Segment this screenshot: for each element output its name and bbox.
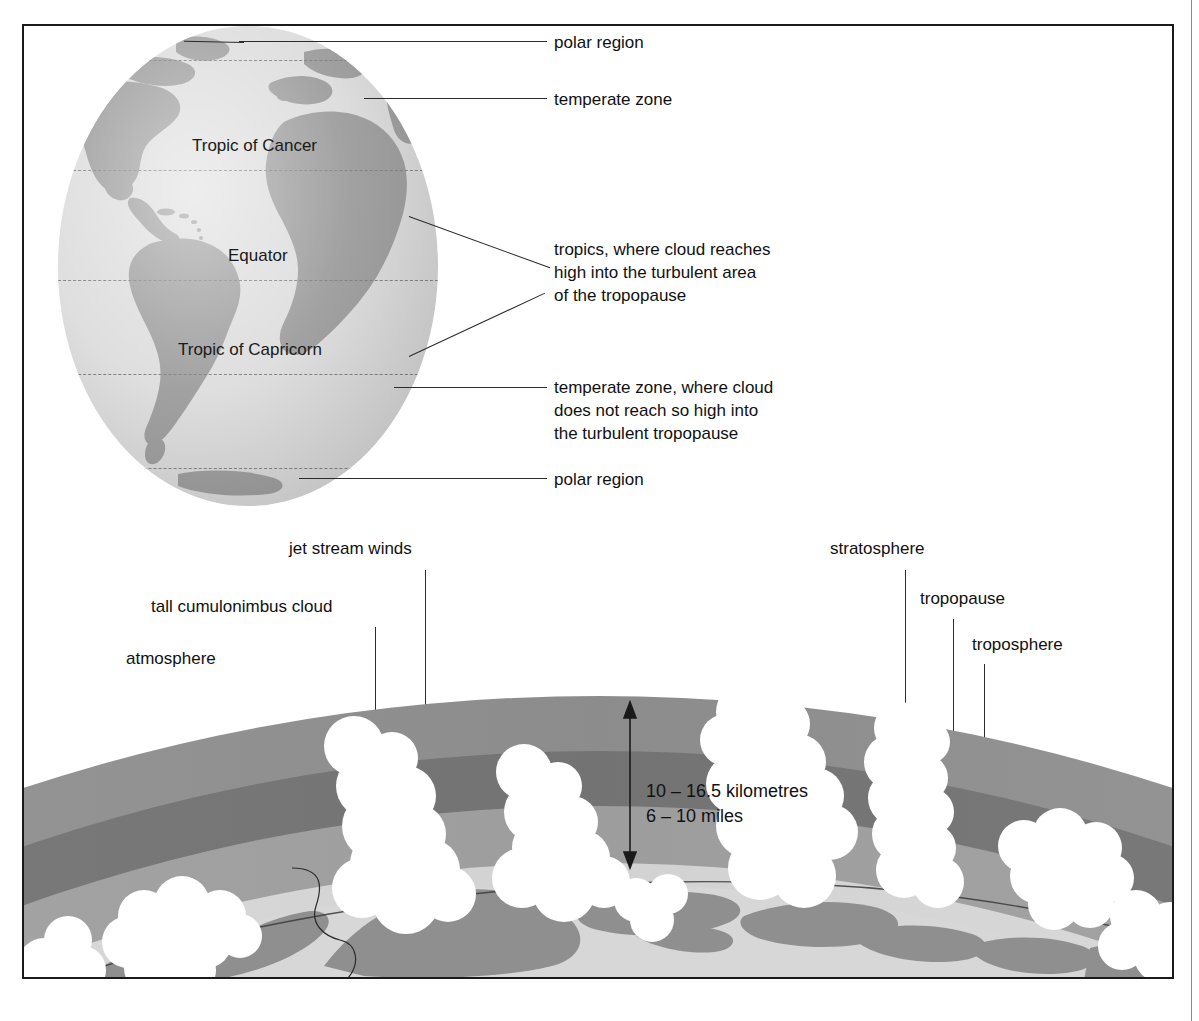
callout-temperate-zone-north: temperate zone bbox=[554, 88, 672, 111]
lat-label-equator: Equator bbox=[228, 246, 288, 266]
leader-polar-region-north bbox=[239, 41, 547, 42]
lat-label-tropic-of-cancer: Tropic of Cancer bbox=[192, 136, 317, 156]
diagram-frame: Tropic of Cancer Equator Tropic of Capri… bbox=[22, 24, 1174, 979]
callout-temperate-zone-south: temperate zone, where cloud does not rea… bbox=[554, 376, 773, 445]
atmosphere-cross-section: 10 – 16.5 kilometres 6 – 10 miles bbox=[24, 496, 1172, 979]
lat-line-arctic-circle bbox=[58, 60, 438, 61]
height-measurement-label: 10 – 16.5 kilometres 6 – 10 miles bbox=[646, 779, 808, 829]
lat-line-equator bbox=[58, 280, 438, 281]
callout-polar-region-north: polar region bbox=[554, 31, 644, 54]
diagram-page: Tropic of Cancer Equator Tropic of Capri… bbox=[0, 0, 1199, 1021]
callout-tropics: tropics, where cloud reaches high into t… bbox=[554, 238, 770, 307]
callout-polar-region-south: polar region bbox=[554, 468, 644, 491]
leader-temperate-zone-north bbox=[364, 98, 547, 99]
leader-temperate-zone-south bbox=[394, 387, 547, 388]
lat-line-antarctic-circle bbox=[58, 468, 438, 469]
lat-line-tropic-of-cancer bbox=[58, 170, 438, 171]
page-right-rule bbox=[1191, 0, 1192, 1021]
atmosphere-arcs bbox=[24, 496, 1172, 979]
lat-line-tropic-of-capricorn bbox=[58, 374, 438, 375]
leader-polar-region-south bbox=[299, 478, 547, 479]
lat-label-tropic-of-capricorn: Tropic of Capricorn bbox=[178, 340, 322, 360]
